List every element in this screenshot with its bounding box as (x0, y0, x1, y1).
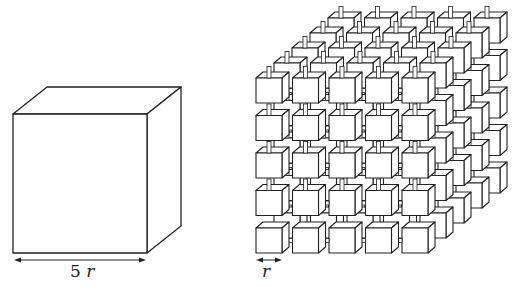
diagram-canvas: 5 r r (0, 0, 530, 295)
small-cube-front (293, 116, 319, 141)
small-cube-side (319, 110, 326, 141)
label-number: 5 (70, 261, 81, 281)
small-cube-front (402, 228, 428, 253)
connector-rod (304, 104, 308, 116)
small-cube-side (464, 42, 471, 73)
connector-rod (285, 52, 289, 64)
small-cube-side (355, 222, 362, 253)
connector-rod (394, 22, 398, 34)
small-cube-side (319, 147, 326, 178)
large-cube-front (13, 114, 147, 253)
connector-rod (376, 7, 380, 19)
connector-rod (304, 179, 308, 191)
label-variable: r (262, 261, 270, 281)
connector-rod (377, 104, 381, 116)
connector-rod (339, 7, 343, 19)
small-cube-side (428, 72, 435, 103)
small-cube-front (293, 78, 319, 103)
small-cube-front (366, 153, 392, 178)
arrowhead-icon (275, 258, 282, 263)
small-cube-side (428, 185, 435, 216)
connector-rod (413, 104, 417, 116)
connector-rod (358, 52, 362, 64)
small-cube-side (446, 207, 453, 238)
small-cube-front (402, 153, 428, 178)
connector-rod (413, 37, 417, 49)
arrowhead-icon (14, 258, 21, 263)
small-cube-side (392, 147, 399, 178)
connector-rod (304, 67, 308, 79)
connector-rod (377, 67, 381, 79)
small-cube-side (446, 95, 453, 126)
connector-rod (395, 52, 399, 64)
connector-rod (449, 7, 453, 19)
connector-rod (449, 37, 453, 49)
connector-rod (267, 142, 271, 154)
connector-rod (413, 142, 417, 154)
small-cube-side (464, 117, 471, 148)
small-cube-front (329, 153, 355, 178)
connector-rod (322, 52, 326, 64)
connector-rod (303, 37, 307, 49)
connector-rod (340, 37, 344, 49)
small-cube-front (256, 116, 282, 141)
small-cube-side (319, 185, 326, 216)
small-cube-side (392, 72, 399, 103)
small-cube-side (355, 147, 362, 178)
small-cube-front (329, 116, 355, 141)
small-cube-side (355, 185, 362, 216)
small-cube-front (402, 191, 428, 216)
connector-rod (267, 179, 271, 191)
small-cube-front (402, 78, 428, 103)
connector-rod (413, 67, 417, 79)
connector-rod (321, 22, 325, 34)
small-cube-front (256, 191, 282, 216)
small-cube-side (500, 12, 507, 43)
connector-rod (412, 7, 416, 19)
large-cube-side (147, 87, 181, 253)
small-cube-front (329, 78, 355, 103)
small-cube-front (293, 153, 319, 178)
small-cube-side (482, 140, 489, 171)
small-cube-side (282, 110, 289, 141)
small-cube-side (482, 102, 489, 133)
connector-rod (340, 142, 344, 154)
small-cube-side (446, 57, 453, 88)
connector-rod (340, 179, 344, 191)
small-cube-side (282, 222, 289, 253)
small-cube-side (392, 222, 399, 253)
small-cube-front (329, 191, 355, 216)
small-cube-front (293, 228, 319, 253)
connector-rod (485, 7, 489, 19)
small-cube-side (392, 185, 399, 216)
connector-rod (377, 142, 381, 154)
small-cube-side (500, 87, 507, 118)
small-cube-side (482, 27, 489, 58)
connector-rod (267, 104, 271, 116)
small-cube-side (428, 147, 435, 178)
large-cube-edge-label: 5 r (70, 263, 94, 280)
connector-rod (340, 104, 344, 116)
small-cube-side (500, 162, 507, 193)
small-cube-front (293, 191, 319, 216)
small-cube-side (464, 155, 471, 186)
connector-rod (431, 22, 435, 34)
small-cube-side (355, 110, 362, 141)
connector-rod (467, 22, 471, 34)
small-cube-side (392, 110, 399, 141)
label-variable: r (86, 261, 94, 281)
small-cube-side (282, 147, 289, 178)
connector-rod (267, 67, 271, 79)
small-cube-side (282, 185, 289, 216)
connector-rod (413, 179, 417, 191)
cube-diagram (0, 0, 530, 295)
small-cube-side (446, 132, 453, 163)
small-cube-side (464, 80, 471, 111)
small-cube-front (366, 116, 392, 141)
small-cube-side (500, 50, 507, 81)
small-cube-front (402, 116, 428, 141)
small-cube-side (482, 177, 489, 208)
small-cube-front (366, 78, 392, 103)
connector-rod (304, 142, 308, 154)
connector-rod (431, 52, 435, 64)
